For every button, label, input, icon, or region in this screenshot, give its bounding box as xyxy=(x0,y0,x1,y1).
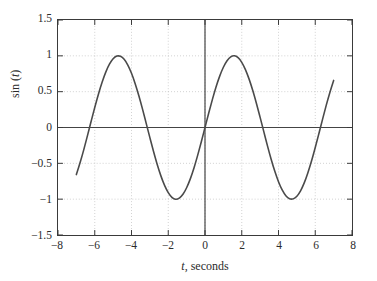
x-tick-label: 2 xyxy=(239,240,245,252)
y-tick-label: 1 xyxy=(46,49,52,61)
x-tick-label: 8 xyxy=(350,240,356,252)
y-tick-label: −1.5 xyxy=(31,230,52,242)
y-axis-title: sin (t) xyxy=(8,70,23,98)
x-axis-title-rest: , seconds xyxy=(185,259,229,273)
y-tick-label: 1.5 xyxy=(38,13,52,25)
x-tick-label: −8 xyxy=(51,240,63,252)
tick-marks-layer xyxy=(58,20,352,235)
y-axis-title-symbol: t xyxy=(8,74,22,77)
y-tick-label: −0.5 xyxy=(31,158,52,170)
y-axis-title-prefix: sin ( xyxy=(8,77,22,98)
x-tick-label: 6 xyxy=(313,240,319,252)
x-tick-label: −6 xyxy=(88,240,100,252)
y-tick-label: 0 xyxy=(46,122,52,134)
plot-area xyxy=(57,19,353,236)
y-tick-label: 0.5 xyxy=(38,85,52,97)
x-axis-tick-labels: −8 −6 −4 −2 0 2 4 6 8 xyxy=(57,240,353,256)
chart-page: 1.5 1 0.5 0 −0.5 −1 −1.5 −8 −6 −4 −2 0 2… xyxy=(0,0,377,281)
y-axis-title-suffix: ) xyxy=(8,70,22,74)
x-axis-title: t, seconds xyxy=(57,259,353,274)
x-tick-label: 4 xyxy=(276,240,282,252)
x-tick-label: −4 xyxy=(125,240,137,252)
y-tick-label: −1 xyxy=(40,194,52,206)
x-tick-label: 0 xyxy=(202,240,208,252)
x-tick-label: −2 xyxy=(162,240,174,252)
y-axis-tick-labels: 1.5 1 0.5 0 −0.5 −1 −1.5 xyxy=(0,19,52,236)
